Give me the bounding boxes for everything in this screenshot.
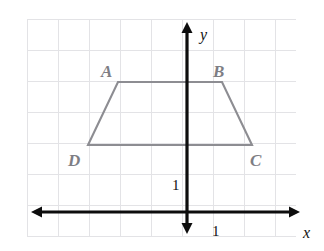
y-axis-unit-label: 1 (172, 177, 180, 193)
y-axis-label: y (198, 26, 208, 44)
vertex-label-d: D (67, 151, 80, 170)
x-axis-label: x (302, 224, 310, 241)
x-axis-unit-label: 1 (212, 223, 220, 239)
vertex-label-c: C (250, 151, 262, 170)
coordinate-plane-svg: y x 1 1 ABCD (0, 0, 324, 251)
vertex-label-a: A (100, 62, 112, 81)
vertex-label-b: B (212, 62, 224, 81)
coordinate-plane-figure: y x 1 1 ABCD (0, 0, 324, 251)
